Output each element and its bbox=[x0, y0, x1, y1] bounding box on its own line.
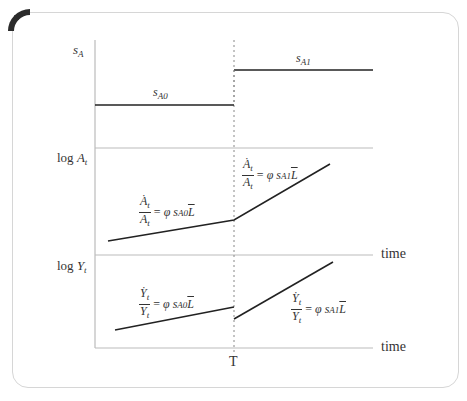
equation-a-growth-after: ·AtAt = φ sA1L bbox=[242, 158, 298, 193]
shock-time-label: T bbox=[229, 354, 238, 370]
s-a0-label: sA0 bbox=[153, 85, 168, 101]
equation-y-growth-after: ·YtYt = φ sA1L bbox=[291, 292, 346, 327]
time-label-technology: time bbox=[381, 246, 406, 262]
equation-y-growth-before: ·YtYt = φ sA0L bbox=[139, 287, 194, 322]
y-label-log-technology: log At bbox=[57, 150, 87, 167]
s-a1-label: sA1 bbox=[296, 51, 311, 67]
y-label-saving-rate: sA bbox=[73, 42, 84, 59]
y-label-log-output: log Yt bbox=[57, 258, 87, 275]
time-label-output: time bbox=[381, 339, 406, 355]
equation-a-growth-before: ·AtAt = φ sA0L bbox=[139, 195, 195, 230]
